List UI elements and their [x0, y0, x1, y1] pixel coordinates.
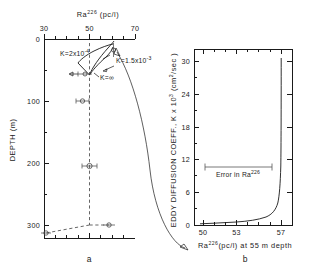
panel-b-yaxis-title-main: EDDY DIFFUSION COEFF., K x 10 — [169, 97, 178, 227]
panel-b-xticklabel-0: 50 — [199, 228, 208, 237]
panel-b: 0 6 12 18 24 30 — [168, 49, 292, 264]
panel-a-yaxis-title: DEPTH (m) — [8, 119, 17, 162]
panel-b-errorbar-label-sup: 226 — [251, 169, 260, 175]
panels-connector-arrowhead-bottom — [180, 244, 188, 250]
panel-b-yticklabel-2: 12 — [181, 155, 190, 164]
panel-b-xaxis-title-unit: (pc/l) at 55 m depth — [218, 241, 292, 250]
panel-b-yaxis-title-mid: (cm — [169, 77, 178, 93]
panel-b-yticklabel-1: 6 — [186, 188, 190, 197]
panel-b-label: b — [243, 254, 248, 264]
panel-a-xaxis-title-sup: 226 — [87, 9, 97, 15]
figure-svg: Ra226 (pc/l) 30 50 70 — [0, 0, 309, 276]
panel-a-annotation-k-2e-4: K=2x10-4 — [60, 48, 89, 57]
panel-a-yticklabel-0: 0 — [36, 35, 40, 44]
panel-b-yaxis-title: EDDY DIFFUSION COEFF., K x 103 (cm2/sec … — [168, 53, 178, 227]
figure-container: Ra226 (pc/l) 30 50 70 — [0, 0, 309, 276]
panel-a-profile-dashed-branch — [46, 225, 90, 233]
panel-b-xticklabel-1: 53 — [232, 228, 241, 237]
panel-a-annotation-k-infinity: K=∞ — [100, 74, 114, 81]
panel-a-xaxis-title-base: Ra — [77, 10, 88, 19]
panel-b-xticklabel-2: 57 — [277, 228, 286, 237]
panel-a-leader-k-1p5e-3-arrow — [103, 69, 107, 72]
panel-b-errorbar-label: Error in Ra226 — [216, 169, 260, 178]
panel-b-frame — [194, 49, 292, 225]
panel-a-annotation-k-1p5e-3-sup: -3 — [147, 55, 152, 61]
panel-b-yticklabel-4: 24 — [181, 90, 190, 99]
panel-b-data-curve — [200, 58, 281, 224]
panel-a-annotation-k-2e-4-base: K=2x10 — [60, 50, 84, 57]
panel-a-label: a — [87, 254, 92, 264]
panel-a-leader-k-infinity — [94, 73, 99, 77]
panel-b-yticklabel-5: 30 — [181, 57, 190, 66]
panel-a-leader-k-2e-4 — [103, 55, 110, 59]
panel-a: Ra226 (pc/l) 30 50 70 — [8, 9, 151, 264]
panel-a-xticklabel-2: 70 — [131, 24, 140, 33]
panel-a-yticklabel-1: 100 — [27, 97, 40, 106]
panel-a-xticklabel-0: 30 — [40, 24, 49, 33]
panel-a-xticklabel-1: 50 — [85, 24, 94, 33]
panel-a-xaxis-title: Ra226 (pc/l) — [77, 9, 119, 19]
panel-b-xaxis-title: Ra226(pc/l) at 55 m depth — [198, 240, 292, 250]
panel-a-xaxis-title-unit: (pc/l) — [97, 10, 119, 19]
panel-a-yticklabel-3: 300 — [27, 221, 40, 230]
panel-a-yticklabel-2: 200 — [27, 159, 40, 168]
panel-a-annotation-k-2e-4-sup: -4 — [84, 48, 89, 54]
panel-b-yticklabel-3: 18 — [181, 123, 190, 132]
panel-b-yticklabel-0: 0 — [186, 221, 190, 230]
panel-b-xaxis-title-sup: 226 — [208, 240, 218, 246]
panel-b-xaxis-title-base: Ra — [198, 241, 209, 250]
panel-b-errorbar-label-base: Error in Ra — [216, 171, 251, 178]
panel-b-yaxis-title-tail: /sec ) — [169, 53, 178, 74]
